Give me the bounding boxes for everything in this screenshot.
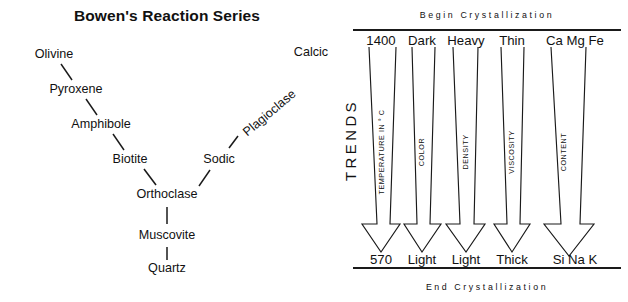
trend-column-content: Ca Mg FeCONTENTSi Na K xyxy=(544,33,604,267)
right-panel: Begin Crystallization TRENDS 1400TEMPERA… xyxy=(342,10,621,292)
mineral-label: Quartz xyxy=(148,261,186,275)
figure-canvas: Bowen's Reaction Series OlivinePyroxeneA… xyxy=(0,0,628,302)
mineral-connector xyxy=(144,169,156,185)
trend-column-viscosity: ThinVISCOSITYThick xyxy=(494,33,530,267)
mineral-label: Plagioclase xyxy=(240,87,298,139)
left-panel: Bowen's Reaction Series OlivinePyroxeneA… xyxy=(35,7,328,275)
mineral-label: Orthoclase xyxy=(137,187,198,201)
begin-crystallization-label: Begin Crystallization xyxy=(420,10,554,20)
end-crystallization-label: End Crystallization xyxy=(426,282,548,292)
trend-head-label-viscosity: Thin xyxy=(499,33,525,48)
trend-head-label-density: Heavy xyxy=(447,33,485,48)
mineral-label: Olivine xyxy=(35,47,74,61)
trend-column-temperature: 1400TEMPERATURE IN ° C570 xyxy=(362,33,400,267)
mineral-label: Calcic xyxy=(294,45,328,59)
trend-foot-label-temperature: 570 xyxy=(370,252,392,267)
page-title: Bowen's Reaction Series xyxy=(74,7,260,24)
bowens-reaction-series-figure: Bowen's Reaction Series OlivinePyroxeneA… xyxy=(0,0,628,302)
trend-arrow-columns: 1400TEMPERATURE IN ° C570DarkCOLORLightH… xyxy=(362,33,604,267)
mineral-label: Muscovite xyxy=(139,228,196,242)
mineral-label: Biotite xyxy=(112,152,147,166)
mineral-label: Amphibole xyxy=(71,117,131,131)
trend-foot-label-color: Light xyxy=(408,252,437,267)
mineral-connector xyxy=(61,64,72,80)
trend-column-density: HeavyDENSITYLight xyxy=(446,33,485,267)
trend-foot-label-content: Si Na K xyxy=(553,252,598,267)
trend-caption-density: DENSITY xyxy=(461,134,470,169)
trend-caption-viscosity: VISCOSITY xyxy=(507,130,516,173)
mineral-connector xyxy=(229,136,238,148)
trend-foot-label-viscosity: Thick xyxy=(496,252,528,267)
mineral-nodes: OlivinePyroxeneAmphiboleBiotiteOrthoclas… xyxy=(35,45,328,275)
trend-caption-temperature: TEMPERATURE IN ° C xyxy=(377,110,386,195)
mineral-label: Sodic xyxy=(203,152,235,166)
mineral-connector xyxy=(86,99,97,115)
mineral-connector xyxy=(199,170,210,186)
mineral-connector xyxy=(113,134,124,150)
trend-head-label-temperature: 1400 xyxy=(366,33,395,48)
trends-side-label: TRENDS xyxy=(342,99,359,181)
mineral-label: Pyroxene xyxy=(49,82,102,96)
trend-foot-label-density: Light xyxy=(452,252,481,267)
trend-caption-color: COLOR xyxy=(417,138,426,166)
trend-head-label-content: Ca Mg Fe xyxy=(546,33,604,48)
trend-caption-content: CONTENT xyxy=(559,133,568,172)
trend-column-color: DarkCOLORLight xyxy=(404,33,441,267)
trend-head-label-color: Dark xyxy=(408,33,436,48)
trend-arrow-content xyxy=(544,47,594,256)
